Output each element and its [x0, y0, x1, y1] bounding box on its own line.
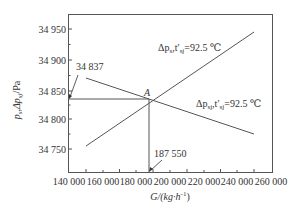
- y-tick-label: 34 850: [39, 86, 67, 97]
- x-tick-label: 160 000: [87, 176, 120, 187]
- y-tick-label: 34 800: [39, 114, 67, 125]
- y-value-callout: 34 837: [76, 61, 104, 72]
- series-label-increasing: Δps,t′sj=92.5 ℃: [158, 42, 221, 55]
- x-tick-label: 240 000: [221, 176, 254, 187]
- y-axis-title: ps,Δpsj/Pa: [11, 80, 24, 120]
- y-tick-label: 34 900: [39, 55, 67, 66]
- x-tick-label: 180 000: [120, 176, 153, 187]
- chart-svg: 34 950 34 900 34 850 34 800 34 750 140 0…: [0, 0, 303, 207]
- y-callout-arrow-line: [70, 75, 78, 97]
- y-tick-label: 34 750: [39, 144, 67, 155]
- x-tick-label: 140 000: [53, 176, 86, 187]
- x-axis-tick-labels: 140 000 160 000 180 000 200 000 220 000 …: [53, 176, 288, 187]
- x-callout-arrow-icon: [149, 167, 153, 172]
- x-callout-arrow-line: [151, 160, 162, 170]
- series-label-decreasing: Δpsj,t′sj=92.5 ℃: [196, 98, 261, 111]
- x-value-callout: 187 550: [154, 148, 187, 159]
- x-tick-label: 260 000: [255, 176, 288, 187]
- y-axis-ticks: [69, 29, 73, 149]
- x-axis-ticks: [86, 169, 254, 172]
- chart-container: 34 950 34 900 34 850 34 800 34 750 140 0…: [0, 0, 303, 207]
- x-tick-label: 220 000: [188, 176, 221, 187]
- point-a-label: A: [143, 87, 151, 98]
- y-axis-tick-labels: 34 950 34 900 34 850 34 800 34 750: [39, 24, 67, 155]
- y-tick-label: 34 950: [39, 24, 67, 35]
- x-tick-label: 200 000: [154, 176, 187, 187]
- x-axis-title: G/(kg·h-1): [150, 190, 189, 203]
